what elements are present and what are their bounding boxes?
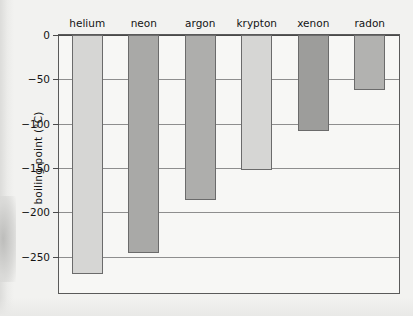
bar-argon[interactable] [185, 35, 216, 200]
bar-radon[interactable] [354, 35, 385, 90]
bar-helium[interactable] [72, 35, 103, 274]
y-tick-mark [53, 257, 59, 258]
gridline-neg150 [59, 168, 399, 169]
y-tick-mark [53, 124, 59, 125]
y-tick-label: 0 [43, 29, 50, 41]
y-tick-label: −150 [21, 162, 50, 174]
y-tick-mark [53, 212, 59, 213]
y-tick-mark [53, 35, 59, 36]
category-label-krypton: krypton [237, 17, 277, 29]
plot-area: 0−50−100−150−200−250heliumneonargonkrypt… [58, 34, 400, 294]
y-tick-label: −250 [21, 251, 50, 263]
bar-krypton[interactable] [241, 35, 272, 170]
y-tick-mark [53, 168, 59, 169]
category-label-helium: helium [69, 17, 105, 29]
category-label-neon: neon [131, 17, 157, 29]
y-tick-label: −100 [21, 118, 50, 130]
y-tick-label: −200 [21, 206, 50, 218]
category-label-argon: argon [185, 17, 215, 29]
bar-chart: boiling point (°C) 0−50−100−150−200−250h… [0, 0, 413, 316]
gridline-neg50 [59, 79, 399, 80]
gridline-neg100 [59, 124, 399, 125]
gridline-0 [59, 35, 399, 36]
gridline-neg250 [59, 257, 399, 258]
gridline-neg200 [59, 212, 399, 213]
y-tick-mark [53, 79, 59, 80]
category-label-radon: radon [355, 17, 386, 29]
category-label-xenon: xenon [297, 17, 329, 29]
y-tick-label: −50 [28, 73, 50, 85]
bar-xenon[interactable] [298, 35, 329, 131]
bar-neon[interactable] [128, 35, 159, 253]
